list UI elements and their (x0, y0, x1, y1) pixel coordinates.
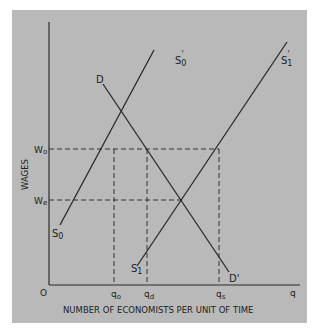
label-d: D (96, 74, 104, 85)
label-origin: O (40, 288, 47, 298)
supply-curve-s0 (60, 50, 154, 225)
y-axis-label: WAGES (20, 159, 30, 190)
demand-curve (103, 84, 229, 272)
label-s0-prime: S0' (175, 50, 186, 68)
label-wo: Wo (34, 145, 47, 156)
label-we: We (34, 196, 47, 207)
label-qo: qo (111, 289, 121, 301)
label-q: q (290, 288, 296, 298)
label-s0: S0 (52, 228, 63, 241)
label-qs: qs (216, 289, 226, 301)
label-s1: S1 (131, 263, 142, 276)
label-qd: qd (144, 289, 154, 301)
supply-curve-s1 (137, 42, 287, 266)
label-s1-prime: S1' (281, 50, 292, 68)
x-axis-label: NUMBER OF ECONOMISTS PER UNIT OF TIME (63, 305, 253, 315)
supply-demand-diagram: D D' S0 S0' S1 S1' Wo We WAGES O qo qd q… (0, 0, 318, 329)
label-d-prime: D' (229, 273, 239, 284)
